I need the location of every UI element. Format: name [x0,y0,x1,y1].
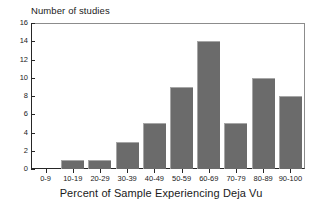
y-axis-tick-label: 12 [0,56,28,64]
x-axis-title: Percent of Sample Experiencing Deja Vu [0,187,322,200]
y-axis-tick-label: 14 [0,37,28,45]
bar [252,78,275,169]
bar [116,142,139,169]
y-axis-tick-label: 16 [0,19,28,27]
y-axis-tick-mark [31,169,35,170]
bar-chart-figure: Number of studies 0246810121416 0-910-19… [0,0,322,210]
bar-slot [222,23,249,169]
x-axis-tick-mark [209,169,210,173]
y-axis-tick-label: 6 [0,110,28,118]
bar [279,96,302,169]
y-axis-tick-label: 8 [0,92,28,100]
bar-slot [195,23,222,169]
x-axis-tick-mark [73,169,74,173]
y-axis-tick-label: 2 [0,147,28,155]
bar-slot [114,23,141,169]
x-axis-tick-mark [290,169,291,173]
bar [170,87,193,169]
y-axis-tick-label: 10 [0,74,28,82]
bar-slot [250,23,277,169]
bar [88,160,111,169]
x-axis-tick-mark [236,169,237,173]
bar [61,160,84,169]
bar-slot [86,23,113,169]
x-axis-tick-mark [154,169,155,173]
x-axis-tick-label: 90-100 [270,174,310,183]
bar [143,123,166,169]
bar-slot [141,23,168,169]
bar [197,41,220,169]
y-axis-tick-label: 0 [0,165,28,173]
y-axis-tick-label: 4 [0,129,28,137]
bar-slot [59,23,86,169]
x-axis-tick-mark [263,169,264,173]
x-axis-tick-mark [127,169,128,173]
bars-layer [32,23,304,169]
x-axis-tick-mark [100,169,101,173]
x-axis-tick-mark [182,169,183,173]
bar-slot [32,23,59,169]
bar-slot [277,23,304,169]
bar-slot [168,23,195,169]
bar [224,123,247,169]
y-axis-title: Number of studies [31,5,110,16]
x-axis-tick-mark [46,169,47,173]
